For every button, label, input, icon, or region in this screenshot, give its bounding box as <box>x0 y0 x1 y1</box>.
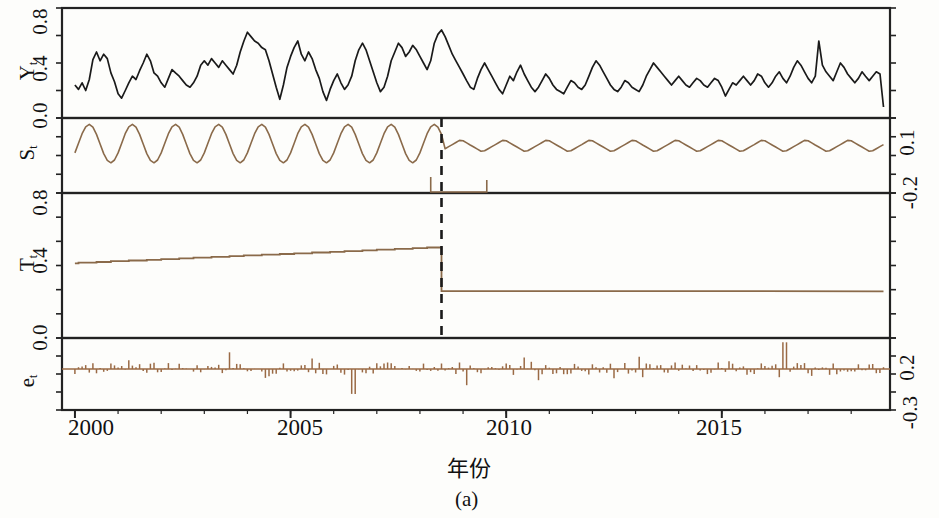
panel-frame-Y_t <box>62 8 890 118</box>
series-Y <box>75 30 884 107</box>
panel-frame-T_t <box>62 193 890 338</box>
series-S <box>75 124 884 162</box>
figure-timeseries-decomposition: Yt St Tt et 0.8 0.4 0.0 0.8 0.4 0.0 0.1 … <box>0 0 939 518</box>
seasonal-bracket <box>431 177 487 192</box>
plot-canvas <box>0 0 939 518</box>
series-e <box>75 342 884 394</box>
series-T <box>75 248 884 292</box>
panel-frame-S_t <box>62 118 890 193</box>
panel-frame-e_t <box>62 338 890 410</box>
